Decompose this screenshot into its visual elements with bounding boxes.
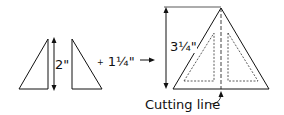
transform-arrow-icon <box>140 58 155 63</box>
left-half-triangle <box>19 39 48 89</box>
height-label: 2" <box>55 58 69 71</box>
result-height-label: 3¼" <box>170 40 197 53</box>
seam-value: 1¼" <box>108 54 135 69</box>
cutting-line-label: Cutting line <box>145 98 220 111</box>
plus-sign: + <box>97 58 104 67</box>
diagram-canvas: 2" + 1¼" 3¼" Cutting line <box>0 0 284 115</box>
diagram-shapes <box>0 0 284 115</box>
seam-allowance-label: + 1¼" <box>97 55 135 68</box>
inner-right-dashed-triangle <box>228 33 258 81</box>
